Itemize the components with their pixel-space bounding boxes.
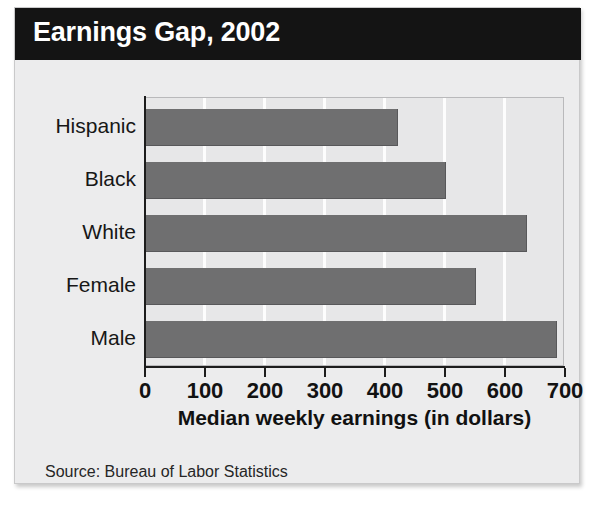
x-tick-label-700: 700 bbox=[530, 378, 600, 404]
x-tick-700 bbox=[564, 368, 566, 377]
category-label-white: White bbox=[24, 220, 136, 244]
bar-hispanic bbox=[146, 109, 398, 146]
x-tick-100 bbox=[204, 368, 206, 377]
category-axis-labels: Hispanic Black White Female Male bbox=[20, 97, 136, 366]
x-tick-300 bbox=[324, 368, 326, 377]
x-tick-600 bbox=[504, 368, 506, 377]
x-tick-400 bbox=[384, 368, 386, 377]
chart-figure: Earnings Gap, 2002 bbox=[0, 0, 601, 505]
source-note: Source: Bureau of Labor Statistics bbox=[45, 463, 288, 481]
chart-card: Earnings Gap, 2002 bbox=[14, 7, 580, 484]
bar-series bbox=[146, 97, 576, 366]
category-label-black: Black bbox=[24, 167, 136, 191]
x-tick-200 bbox=[264, 368, 266, 377]
bar-black bbox=[146, 162, 446, 199]
bar-female bbox=[146, 268, 476, 305]
chart-title: Earnings Gap, 2002 bbox=[33, 17, 280, 48]
title-banner: Earnings Gap, 2002 bbox=[15, 8, 581, 60]
x-tick-500 bbox=[444, 368, 446, 377]
category-label-female: Female bbox=[24, 273, 136, 297]
bar-white bbox=[146, 215, 527, 252]
category-label-male: Male bbox=[24, 326, 136, 350]
y-axis-line bbox=[144, 96, 146, 368]
category-label-hispanic: Hispanic bbox=[24, 114, 136, 138]
bar-male bbox=[146, 321, 557, 358]
x-tick-0 bbox=[144, 368, 146, 377]
x-axis-line bbox=[144, 366, 565, 368]
x-axis-title: Median weekly earnings (in dollars) bbox=[144, 406, 565, 430]
